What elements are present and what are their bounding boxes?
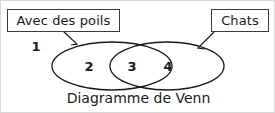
region-count-left-only: 2 (82, 60, 96, 73)
set-ellipse-left (52, 42, 172, 90)
set-label-right-text: Chats (221, 14, 259, 27)
venn-diagram-figure: Avec des poils Chats 1 2 3 4 Diagramme d… (0, 0, 275, 113)
set-label-left-text: Avec des poils (17, 14, 111, 27)
region-count-outside: 1 (29, 40, 43, 53)
diagram-caption: Diagramme de Venn (1, 91, 275, 105)
leader-line-left (63, 31, 77, 45)
set-label-box-right: Chats (211, 9, 269, 32)
region-count-right-only: 4 (161, 60, 175, 73)
set-label-box-left: Avec des poils (7, 9, 120, 32)
region-count-intersection: 3 (125, 60, 139, 73)
